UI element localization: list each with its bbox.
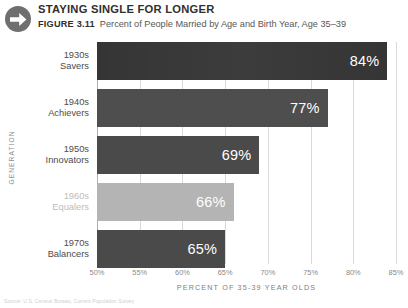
bar: 84% bbox=[97, 42, 387, 80]
x-axis-tick-label: 55% bbox=[120, 268, 160, 277]
bar-row: 1960sEqualers66% bbox=[0, 183, 408, 221]
bar-texture-overlay bbox=[97, 42, 387, 80]
x-axis-tick-label: 60% bbox=[162, 268, 202, 277]
bar: 69% bbox=[97, 136, 259, 174]
bar-series: 1930sSavers84%1940sAchievers77%1950sInno… bbox=[0, 36, 408, 270]
x-axis-tick-label: 50% bbox=[77, 268, 117, 277]
arrow-right-circle-icon bbox=[5, 6, 31, 32]
chart-plot-area: GENERATION 1930sSavers84%1940sAchievers7… bbox=[0, 36, 408, 308]
bar-value-label: 65% bbox=[188, 241, 218, 257]
x-axis-tick-label: 75% bbox=[291, 268, 331, 277]
x-axis-tick-label: 80% bbox=[333, 268, 373, 277]
chart-kicker-title: STAYING SINGLE FOR LONGER bbox=[38, 3, 215, 15]
bar-row: 1940sAchievers77% bbox=[0, 89, 408, 127]
bar-row: 1970sBalancers65% bbox=[0, 230, 408, 268]
bar: 65% bbox=[97, 230, 225, 268]
x-axis-title: PERCENT OF 35-39 YEAR OLDS bbox=[97, 283, 396, 292]
bar-category-label: 1950sInnovators bbox=[0, 144, 89, 167]
bar-category-label: 1960sEqualers bbox=[0, 191, 89, 214]
figure-number: FIGURE 3.11 bbox=[38, 19, 95, 29]
bar-value-label: 84% bbox=[350, 53, 380, 69]
bar-row: 1930sSavers84% bbox=[0, 42, 408, 80]
x-axis-tick-label: 85% bbox=[376, 268, 408, 277]
x-axis-tick-label: 70% bbox=[248, 268, 288, 277]
bar-value-label: 69% bbox=[222, 147, 252, 163]
figure-header: STAYING SINGLE FOR LONGER FIGURE 3.11Per… bbox=[0, 0, 408, 36]
x-axis-ticks: 50%55%60%65%70%75%80%85% bbox=[0, 268, 408, 282]
bar-value-label: 66% bbox=[196, 194, 226, 210]
bar-row: 1950sInnovators69% bbox=[0, 136, 408, 174]
figure-caption: FIGURE 3.11Percent of People Married by … bbox=[38, 19, 346, 29]
figure-description: Percent of People Married by Age and Bir… bbox=[100, 19, 346, 29]
x-axis-tick-label: 65% bbox=[205, 268, 245, 277]
bar-category-label: 1940sAchievers bbox=[0, 97, 89, 120]
source-note: Source: U.S. Census Bureau, Current Popu… bbox=[4, 298, 254, 304]
bar-category-label: 1930sSavers bbox=[0, 50, 89, 73]
bar: 77% bbox=[97, 89, 328, 127]
bar: 66% bbox=[97, 183, 234, 221]
bar-category-label: 1970sBalancers bbox=[0, 238, 89, 261]
bar-value-label: 77% bbox=[290, 100, 320, 116]
